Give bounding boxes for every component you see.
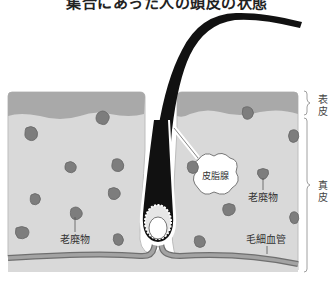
waste-label-left: 老廃物 <box>60 235 90 245</box>
capillary-label: 毛細血管 <box>246 235 286 245</box>
sebaceous-gland-label: 皮脂腺 <box>202 172 229 181</box>
epidermis-label: 表皮 <box>318 94 328 118</box>
dermis-label: 真皮 <box>318 180 328 204</box>
layer-brackets <box>304 91 310 272</box>
waste-label-right: 老廃物 <box>248 193 278 203</box>
